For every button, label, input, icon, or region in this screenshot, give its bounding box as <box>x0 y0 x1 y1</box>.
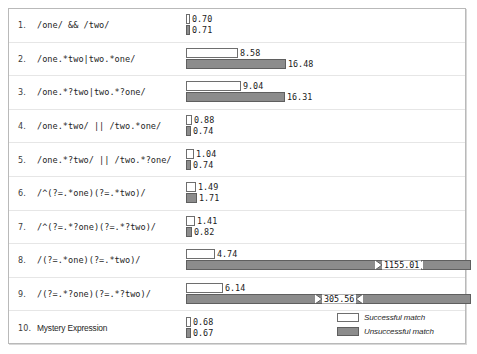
regex-expression-label: /(?=.*?one)(?=.*?two)/ <box>37 289 151 299</box>
bar-value-label: 0.68 <box>191 317 213 327</box>
bar-value-label: 8.58 <box>238 48 260 58</box>
bar-value-label: 1.71 <box>197 193 219 203</box>
bar-value-label: 0.82 <box>192 227 214 237</box>
regex-expression-label: /one.*two|two.*one/ <box>37 54 135 64</box>
row-index: 7. <box>18 222 34 231</box>
bar-value-label: 16.48 <box>286 59 313 69</box>
bar-rect-succ <box>186 81 241 91</box>
bar-rect-succ <box>186 283 223 293</box>
row-index: 1. <box>18 21 34 30</box>
bar-rect-unsucc <box>186 92 285 102</box>
bar-rect-unsucc <box>186 59 286 69</box>
table-row: 4./one.*two/ || /two.*one/0.880.74 <box>9 110 465 144</box>
row-index: 10. <box>18 324 34 333</box>
bar-value-label: 0.71 <box>190 25 212 35</box>
axis-break-icon <box>356 294 363 304</box>
regex-expression-label: /one.*?two|two.*?one/ <box>37 87 146 97</box>
bar-value-label: 1.04 <box>194 149 216 159</box>
bar-rect-succ <box>186 182 196 192</box>
row-index: 4. <box>18 122 34 131</box>
row-index: 6. <box>18 189 34 198</box>
bar-value-label: 0.88 <box>192 115 214 125</box>
legend-label-successful: Successful match <box>364 313 425 322</box>
bar-rect-unsucc <box>186 193 197 203</box>
row-index: 9. <box>18 290 34 299</box>
regex-expression-label: /(?=.*one)(?=.*two)/ <box>37 255 140 265</box>
regex-expression-label: /one/ && /two/ <box>37 20 109 30</box>
row-index: 3. <box>18 88 34 97</box>
chart-panel: 1./one/ && /two/0.700.712./one.*two|two.… <box>8 8 466 344</box>
bar-value-label: 6.14 <box>223 283 245 293</box>
bar-rect-succ <box>186 249 215 259</box>
row-index: 2. <box>18 54 34 63</box>
row-index: 5. <box>18 155 34 164</box>
table-row: 7./^(?=.*?one)(?=.*?two)/1.410.82 <box>9 211 465 245</box>
bar-value-label: 0.74 <box>191 160 213 170</box>
legend-item-unsuccessful: Unsuccessful match <box>337 325 459 337</box>
bar-group: 9.0416.31 <box>186 81 463 103</box>
bar-rect-succ <box>186 48 238 58</box>
bar-rect-succ <box>186 149 194 159</box>
legend-swatch-unsuccessful-icon <box>337 327 359 336</box>
bar-group: 1.410.82 <box>186 216 463 238</box>
regex-expression-label: /one.*?two/ || /two.*?one/ <box>37 155 172 165</box>
legend-item-successful: Successful match <box>337 311 459 323</box>
row-index: 8. <box>18 256 34 265</box>
chart-legend: Successful match Unsuccessful match <box>337 311 459 339</box>
bar-group: 1.040.74 <box>186 149 463 171</box>
legend-swatch-successful-icon <box>337 313 359 322</box>
regex-expression-label: /^(?=.*?one)(?=.*?two)/ <box>37 222 156 232</box>
bar-group: 8.5816.48 <box>186 48 463 70</box>
bar-rect-unsucc <box>186 260 471 270</box>
bar-value-label: 1155.01 <box>382 261 421 270</box>
table-row: 9./(?=.*?one)(?=.*?two)/6.14305.56 <box>9 278 465 312</box>
chart-row-list: 1./one/ && /two/0.700.712./one.*two|two.… <box>9 9 465 343</box>
bar-value-label: 1.49 <box>196 182 218 192</box>
bar-group: 6.14305.56 <box>186 283 463 305</box>
table-row: 5./one.*?two/ || /two.*?one/1.040.74 <box>9 143 465 177</box>
bar-group: 1.491.71 <box>186 182 463 204</box>
bar-value-label: 0.67 <box>191 328 213 338</box>
axis-break-icon <box>315 294 322 304</box>
bar-value-label: 9.04 <box>241 81 263 91</box>
bar-value-label: 0.70 <box>190 14 212 24</box>
bar-value-label: 0.74 <box>191 126 213 136</box>
table-row: 8./(?=.*one)(?=.*two)/4.741155.01 <box>9 244 465 278</box>
table-row: 6./^(?=.*one)(?=.*two)/1.491.71 <box>9 177 465 211</box>
regex-expression-label: /one.*two/ || /two.*one/ <box>37 121 161 131</box>
bar-value-label: 305.56 <box>322 295 356 304</box>
legend-label-unsuccessful: Unsuccessful match <box>364 327 434 336</box>
axis-break-icon <box>375 260 382 270</box>
bar-value-label: 4.74 <box>215 249 237 259</box>
table-row: 1./one/ && /two/0.700.71 <box>9 9 465 43</box>
bar-rect-succ <box>186 216 195 226</box>
table-row: 2./one.*two|two.*one/8.5816.48 <box>9 43 465 77</box>
bar-group: 4.741155.01 <box>186 249 463 271</box>
table-row: 3./one.*?two|two.*?one/9.0416.31 <box>9 76 465 110</box>
bar-group: 0.880.74 <box>186 115 463 137</box>
bar-value-label: 16.31 <box>285 92 312 102</box>
regex-expression-label: Mystery Expression <box>37 323 107 333</box>
bar-value-label: 1.41 <box>195 216 217 226</box>
bar-group: 0.700.71 <box>186 14 463 36</box>
regex-expression-label: /^(?=.*one)(?=.*two)/ <box>37 188 146 198</box>
